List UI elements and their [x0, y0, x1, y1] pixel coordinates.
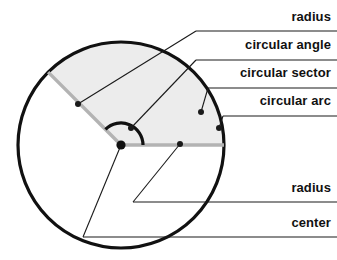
center-point-dot — [116, 140, 125, 149]
anchor-dot-circular-angle — [128, 125, 134, 131]
leader-connector-radius-lower — [133, 144, 180, 202]
label-circular-angle: circular angle — [245, 38, 331, 51]
label-radius-upper: radius — [291, 10, 331, 23]
leader-connector-center — [83, 145, 121, 237]
anchor-dot-radius-upper — [75, 101, 81, 107]
center-group — [116, 140, 125, 149]
label-radius-lower: radius — [291, 181, 331, 194]
anchor-dot-circular-arc — [216, 125, 222, 131]
diagram-canvas: radius circular angle circular sector ci… — [0, 0, 337, 260]
label-circular-sector: circular sector — [240, 66, 331, 79]
anchor-dot-radius-lower — [177, 141, 183, 147]
label-center: center — [291, 216, 331, 229]
label-circular-arc: circular arc — [260, 94, 331, 107]
anchor-dot-circular-sector — [198, 109, 204, 115]
